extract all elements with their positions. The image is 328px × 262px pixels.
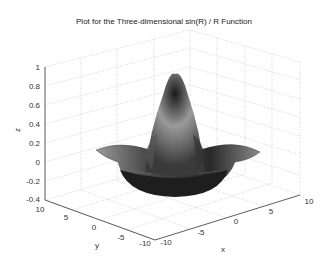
chart-title: Plot for the Three-dimensional sin(R) / … xyxy=(76,17,252,26)
y-axis-label: y xyxy=(95,241,99,250)
svg-text:-5: -5 xyxy=(197,228,205,237)
svg-text:-0.2: -0.2 xyxy=(26,177,40,186)
surface-plot-figure: Plot for the Three-dimensional sin(R) / … xyxy=(0,0,328,262)
x-axis-line xyxy=(155,195,300,240)
svg-text:-5: -5 xyxy=(117,233,125,242)
svg-text:1: 1 xyxy=(36,63,41,72)
y-axis-line xyxy=(45,200,155,240)
svg-text:0: 0 xyxy=(92,223,97,232)
svg-text:0: 0 xyxy=(234,217,239,226)
svg-text:5: 5 xyxy=(64,213,69,222)
plot-canvas: Plot for the Three-dimensional sin(R) / … xyxy=(0,0,328,262)
svg-text:0.4: 0.4 xyxy=(29,120,41,129)
svg-text:0: 0 xyxy=(36,158,41,167)
y-axis-ticks: 10 5 0 -5 -10 xyxy=(36,205,152,248)
svg-text:-0.4: -0.4 xyxy=(26,195,40,204)
svg-text:-10: -10 xyxy=(160,238,172,247)
x-axis-ticks: -10 -5 0 5 10 xyxy=(160,197,314,247)
svg-text:0.8: 0.8 xyxy=(29,82,41,91)
svg-text:5: 5 xyxy=(269,207,274,216)
svg-text:0.2: 0.2 xyxy=(29,139,41,148)
svg-text:0.6: 0.6 xyxy=(29,101,41,110)
z-axis-label: z xyxy=(13,128,22,132)
x-axis-label: x xyxy=(221,245,225,254)
svg-text:10: 10 xyxy=(36,205,45,214)
z-axis-ticks: 1 0.8 0.6 0.4 0.2 0 -0.2 -0.4 xyxy=(26,63,40,204)
svg-text:-10: -10 xyxy=(139,239,151,248)
svg-text:10: 10 xyxy=(305,197,314,206)
